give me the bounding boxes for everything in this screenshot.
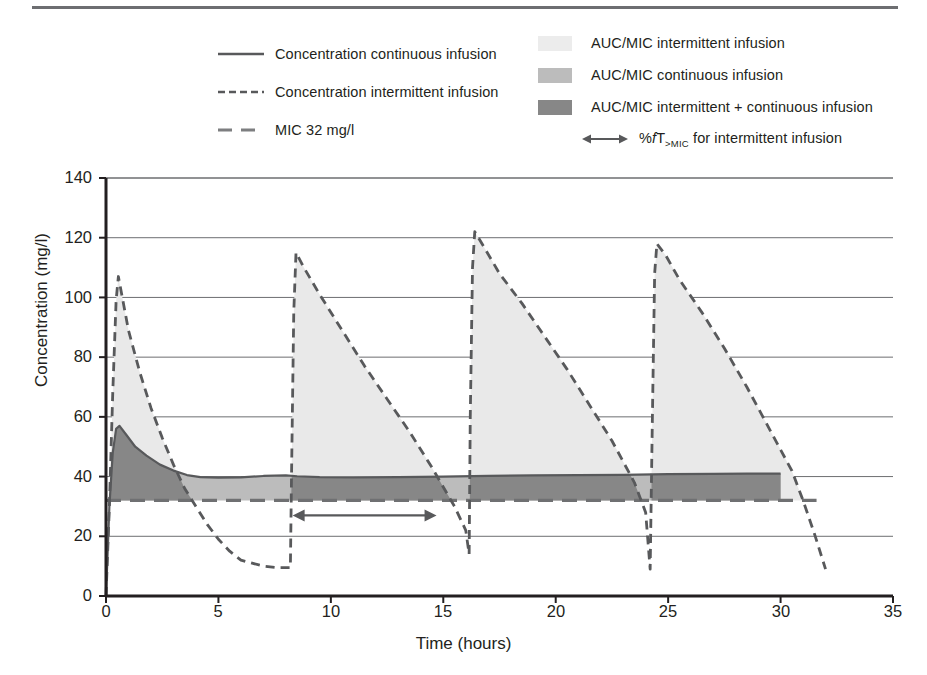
legend-column-lines: Concentration continuous infusion Concen… bbox=[218, 38, 538, 152]
ft-label-t: T bbox=[656, 130, 665, 146]
x-tick-5: 5 bbox=[198, 602, 238, 621]
x-tick-30: 30 bbox=[761, 602, 801, 621]
y-tick-120: 120 bbox=[48, 228, 92, 247]
solid-line-icon bbox=[218, 46, 264, 62]
x-axis-title: Time (hours) bbox=[0, 634, 927, 654]
ft-label-subscript: >MIC bbox=[665, 137, 689, 148]
x-tick-0: 0 bbox=[86, 602, 126, 621]
x-tick-20: 20 bbox=[536, 602, 576, 621]
y-tick-140: 140 bbox=[48, 168, 92, 187]
axes bbox=[99, 178, 893, 603]
light-gray-swatch-icon bbox=[534, 35, 580, 51]
medium-gray-swatch-icon bbox=[534, 67, 580, 83]
ft-above-mic-arrow-annotation bbox=[293, 509, 437, 521]
y-tick-60: 60 bbox=[48, 407, 92, 426]
shaded-areas bbox=[110, 232, 803, 501]
figure-container: Concentration continuous infusion Concen… bbox=[0, 0, 927, 675]
legend-item-mic: MIC 32 mg/l bbox=[218, 114, 538, 146]
legend-label-auc-continuous: AUC/MIC continuous infusion bbox=[591, 67, 783, 83]
y-tick-100: 100 bbox=[48, 288, 92, 307]
legend-label-mic: MIC 32 mg/l bbox=[275, 122, 354, 138]
x-tick-25: 25 bbox=[648, 602, 688, 621]
short-dashed-line-icon bbox=[218, 84, 264, 100]
x-tick-15: 15 bbox=[423, 602, 463, 621]
gridlines bbox=[106, 178, 893, 536]
legend-item-concentration-continuous: Concentration continuous infusion bbox=[218, 38, 538, 70]
legend-label-auc-intermittent: AUC/MIC intermittent infusion bbox=[591, 35, 785, 51]
y-axis-title: Concentration (mg/l) bbox=[32, 180, 52, 440]
legend-item-concentration-intermittent: Concentration intermittent infusion bbox=[218, 76, 538, 108]
y-tick-40: 40 bbox=[48, 467, 92, 486]
legend-item-auc-intermittent: AUC/MIC intermittent infusion bbox=[534, 28, 924, 58]
dark-gray-swatch-icon bbox=[534, 99, 580, 115]
legend-label-concentration-continuous: Concentration continuous infusion bbox=[275, 46, 497, 62]
x-tick-35: 35 bbox=[873, 602, 913, 621]
legend-item-auc-both: AUC/MIC intermittent + continuous infusi… bbox=[534, 92, 924, 122]
x-tick-10: 10 bbox=[311, 602, 351, 621]
ft-label-prefix: % bbox=[639, 130, 652, 146]
top-divider-rule bbox=[32, 6, 898, 9]
chart-legend: Concentration continuous infusion Concen… bbox=[0, 28, 927, 156]
legend-item-auc-continuous: AUC/MIC continuous infusion bbox=[534, 60, 924, 90]
long-dashed-line-icon bbox=[218, 122, 264, 138]
legend-label-ft-above-mic: %fT>MIC for intermittent infusion bbox=[639, 130, 842, 149]
double-arrow-icon bbox=[582, 131, 628, 147]
legend-label-auc-both: AUC/MIC intermittent + continuous infusi… bbox=[591, 99, 873, 115]
series-lines bbox=[106, 232, 826, 596]
ft-label-suffix: for intermittent infusion bbox=[689, 130, 842, 146]
legend-label-concentration-intermittent: Concentration intermittent infusion bbox=[275, 84, 499, 100]
legend-column-areas: AUC/MIC intermittent infusion AUC/MIC co… bbox=[534, 28, 924, 156]
y-tick-80: 80 bbox=[48, 347, 92, 366]
y-tick-0: 0 bbox=[48, 586, 92, 605]
y-tick-20: 20 bbox=[48, 526, 92, 545]
legend-item-ft-above-mic: %fT>MIC for intermittent infusion bbox=[534, 124, 924, 154]
